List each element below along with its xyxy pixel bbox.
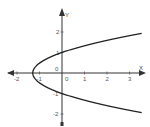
axes	[7, 8, 146, 126]
x-tick-label-zero: 0	[65, 76, 69, 82]
x-axis-label: X	[139, 65, 143, 71]
parabola-chart: -2-1123021-1-2 X Y 0	[0, 0, 150, 127]
x-axis-left-arrow-icon	[7, 70, 14, 76]
x-tick-label: 3	[128, 76, 132, 82]
x-tick-label: -2	[14, 76, 20, 82]
y-tick-label: 2	[56, 29, 60, 35]
origin-label: 0	[55, 66, 59, 72]
y-axis-bottom-marker	[61, 122, 64, 126]
x-tick-label: 1	[83, 76, 87, 82]
y-axis-label: Y	[65, 12, 69, 18]
y-tick-label: -2	[53, 111, 59, 117]
x-tick-label: 2	[106, 76, 110, 82]
